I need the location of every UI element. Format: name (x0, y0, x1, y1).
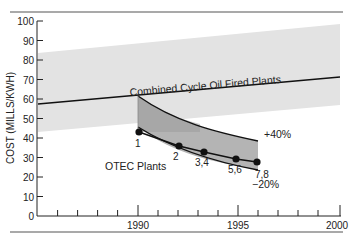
y-label-10: 10 (23, 192, 35, 203)
otec-plants-label: OTEC Plants (105, 160, 166, 172)
x-label-1995: 1995 (227, 220, 250, 231)
x-ticks (58, 205, 340, 216)
point-label-3-4: 3,4 (195, 157, 209, 168)
y-label-40: 40 (23, 133, 35, 144)
y-label-100: 100 (17, 16, 34, 27)
otec-point-1 (135, 128, 142, 135)
point-label-2: 2 (173, 151, 179, 162)
point-label-5-6: 5,6 (228, 164, 242, 175)
otec-point-3-4 (200, 148, 207, 155)
y-label-30: 30 (23, 153, 35, 164)
y-label-60: 60 (23, 94, 35, 105)
otec-cost-chart: 1 2 3,4 5,6 7,8 Combined Cycle Oil Fired… (0, 0, 353, 239)
y-label-0: 0 (28, 211, 34, 222)
y-label-70: 70 (23, 75, 35, 86)
minus-20-label: −20% (252, 178, 279, 190)
plus-40-label: +40% (264, 128, 291, 140)
y-axis-title: COST (MILLS/KWH) (5, 72, 16, 164)
x-label-1990: 1990 (127, 220, 150, 231)
y-label-80: 80 (23, 55, 35, 66)
y-label-20: 20 (23, 172, 35, 183)
x-tick-labels: 1990 1995 2000 (127, 220, 349, 231)
otec-point-7-8 (253, 158, 260, 165)
otec-point-2 (175, 142, 182, 149)
oil-plants-range-band (38, 24, 340, 132)
y-label-90: 90 (23, 36, 35, 47)
y-label-50: 50 (23, 114, 35, 125)
y-tick-labels: 100 90 80 70 60 50 40 30 20 10 0 (17, 16, 34, 222)
otec-point-5-6 (232, 155, 239, 162)
x-label-2000: 2000 (326, 220, 349, 231)
point-label-1: 1 (135, 138, 141, 149)
